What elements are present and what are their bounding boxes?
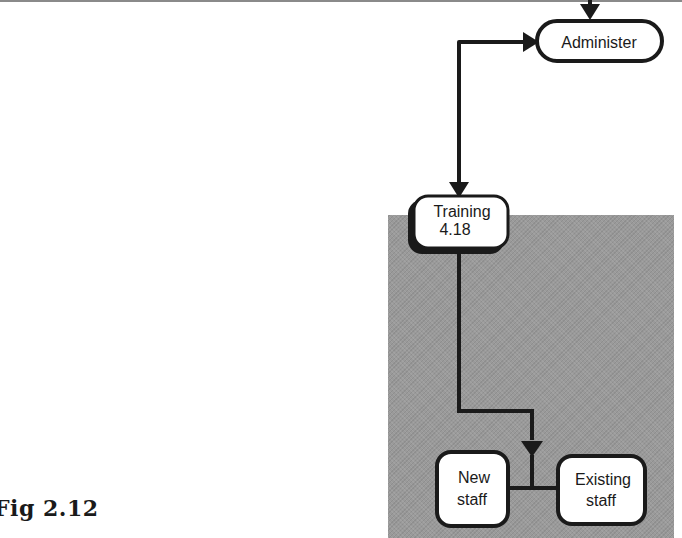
node-administer-label: Administer [561,34,637,51]
node-training-line2: 4.18 [439,221,470,238]
node-training[interactable]: Training 4.18 [408,196,508,254]
node-new-staff[interactable]: New staff [437,452,508,526]
figure-caption: Fig 2.12 [0,495,99,521]
node-administer[interactable]: Administer [537,21,662,61]
node-training-line1: Training [433,203,490,220]
flow-diagram: Administer Training 4.18 New staff Exist… [0,0,682,538]
node-new-staff-line1: New [458,469,490,486]
node-existing-staff[interactable]: Existing staff [558,456,645,524]
node-existing-staff-line1: Existing [575,471,631,488]
node-existing-staff-line2: staff [586,492,617,509]
node-new-staff-line2: staff [457,491,488,508]
connector-training-administer [449,32,539,198]
arrow-into-administer [580,0,600,20]
